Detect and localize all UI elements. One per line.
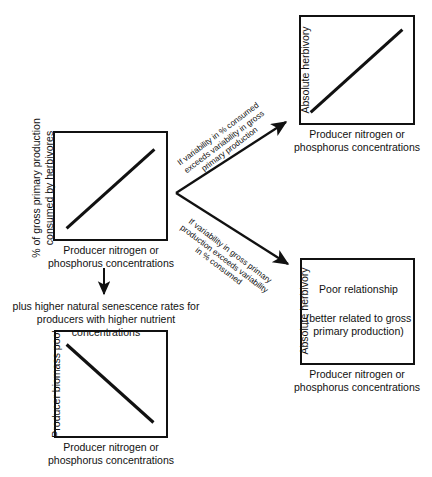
- senescence-note: plus higher natural senescence rates for…: [6, 300, 206, 339]
- flow-diagram: % of gross primary production consumed b…: [0, 0, 432, 477]
